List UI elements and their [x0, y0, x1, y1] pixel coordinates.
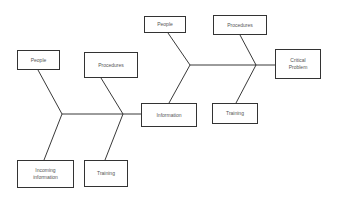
node-label: Procedures: [227, 22, 253, 29]
fishbone-diagram: People Procedures People Procedures Crit…: [0, 0, 338, 200]
node-training-left: Training: [84, 160, 128, 187]
node-label: Procedures: [98, 62, 124, 69]
node-procedures-left: Procedures: [84, 52, 138, 78]
node-label: Information: [156, 112, 181, 119]
node-label: Training: [226, 110, 244, 117]
node-label: Critical Problem: [289, 57, 308, 71]
node-label: People: [157, 21, 173, 28]
bone-people-left: [38, 70, 62, 114]
node-training-right: Training: [212, 103, 258, 124]
node-label: Incoming information: [33, 167, 58, 181]
node-label: People: [31, 57, 47, 64]
node-procedures-top: Procedures: [213, 15, 267, 35]
bone-training-left: [105, 114, 123, 160]
node-incoming-information: Incoming information: [17, 160, 74, 188]
node-critical-problem: Critical Problem: [275, 49, 321, 79]
bone-procedures-top: [240, 35, 256, 65]
node-information: Information: [141, 103, 197, 127]
node-people-top: People: [144, 16, 186, 33]
bone-training-right: [236, 65, 256, 103]
bone-incoming-information: [44, 114, 62, 160]
bone-information: [169, 65, 190, 103]
node-label: Training: [97, 170, 115, 177]
node-people-left: People: [17, 50, 60, 70]
bone-procedures-left: [101, 78, 123, 114]
bone-people-top: [168, 33, 190, 65]
